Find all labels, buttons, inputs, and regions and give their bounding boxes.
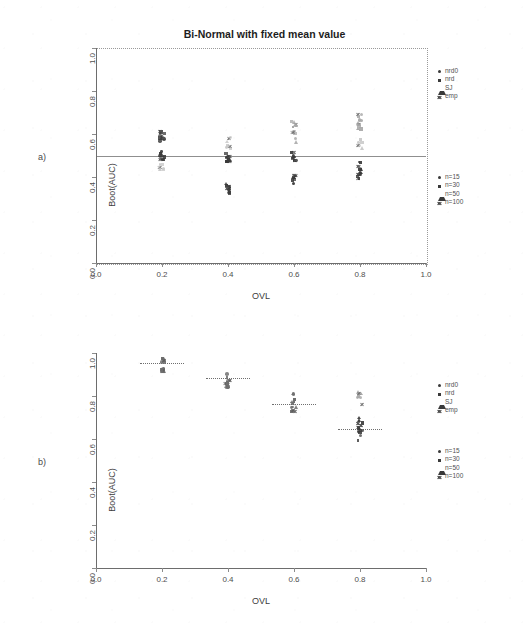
data-point-square xyxy=(359,161,362,164)
legend-glyph-cross-icon xyxy=(438,96,442,100)
data-point-square xyxy=(160,368,163,371)
y-axis-tick-label: 1.0 xyxy=(88,353,97,375)
data-point-square xyxy=(357,124,361,128)
x-axis-tick xyxy=(162,263,163,267)
legend-glyph-circle-icon xyxy=(438,176,441,179)
legend-item-label: emp xyxy=(445,92,458,101)
x-axis-tick-label: 0.6 xyxy=(280,270,308,279)
legend-glyph-square-icon xyxy=(438,185,441,188)
data-point-square xyxy=(357,439,360,442)
panel-label-a: a) xyxy=(38,152,46,162)
data-point-cross xyxy=(162,137,165,140)
data-point-cross xyxy=(163,359,166,362)
legend-glyph-cross-icon xyxy=(438,202,442,206)
x-axis-tick-label: 0.8 xyxy=(346,575,374,584)
data-point-cross xyxy=(294,159,297,162)
x-axis-tick xyxy=(228,568,229,572)
data-point-cross xyxy=(358,392,361,395)
x-axis-tick-label: 0.6 xyxy=(280,575,308,584)
legend-glyph-cross-icon xyxy=(438,410,442,414)
data-point-cross xyxy=(226,187,229,190)
legend-glyph-circle-icon xyxy=(438,384,441,387)
legend-glyph-square-icon xyxy=(438,459,441,462)
legend-item-label: n=30 xyxy=(445,181,460,190)
y-axis-tick-label: 0.6 xyxy=(88,439,97,461)
data-point-triangle xyxy=(158,167,162,171)
x-axis-tick-label: 1.0 xyxy=(412,270,440,279)
data-point-circle xyxy=(293,156,296,159)
legend-glyph-circle-icon xyxy=(438,450,441,453)
legend-item-label: n=15 xyxy=(445,173,460,182)
y-axis-tick-label: 1.0 xyxy=(88,48,97,70)
data-point-cross xyxy=(361,403,364,406)
data-point-cross xyxy=(291,131,294,134)
x-axis-tick xyxy=(426,263,427,267)
x-axis-tick xyxy=(426,568,427,572)
data-point-triangle xyxy=(291,392,295,395)
x-axis-tick-label: 0.2 xyxy=(148,270,176,279)
legend-item-label: n=100 xyxy=(445,198,463,207)
x-axis-tick-label: 0.4 xyxy=(214,575,242,584)
legend-glyph-square-icon xyxy=(438,79,441,82)
x-axis-tick-label: 0.8 xyxy=(346,270,374,279)
data-point-square xyxy=(290,151,293,154)
x-axis-line xyxy=(96,568,427,569)
legend-item-label: SJ xyxy=(445,84,453,93)
legend-item-label: SJ xyxy=(445,398,453,407)
legend-glyph-circle-icon xyxy=(438,70,441,73)
data-point-square xyxy=(358,431,361,434)
y-axis-tick-label: 0.2 xyxy=(88,220,97,242)
data-point-circle xyxy=(359,173,362,176)
x-axis-title: OVL xyxy=(96,596,426,606)
x-axis-tick xyxy=(294,568,295,572)
legend-item-label: n=50 xyxy=(445,464,460,473)
x-axis-title: OVL xyxy=(96,291,426,301)
data-point-square xyxy=(293,400,296,403)
legend-item-label: n=15 xyxy=(445,447,460,456)
data-point-circle xyxy=(225,372,229,376)
panel-label-b: b) xyxy=(38,457,46,467)
x-axis-line xyxy=(96,263,427,264)
x-axis-tick-label: 0.2 xyxy=(148,575,176,584)
x-axis-tick-label: 1.0 xyxy=(412,575,440,584)
y-axis-tick-label: 0.2 xyxy=(88,525,97,547)
y-axis-tick-label: 0.0 xyxy=(88,263,97,285)
data-point-square xyxy=(360,141,363,144)
legend-item-label: n=30 xyxy=(445,455,460,464)
data-point-cross xyxy=(292,409,295,412)
x-axis-tick-label: 0.4 xyxy=(214,270,242,279)
data-point-square xyxy=(162,168,165,171)
y-axis-tick-label: 0.4 xyxy=(88,177,97,199)
y-axis-tick-label: 0.6 xyxy=(88,134,97,156)
legend-item-label: nrd xyxy=(445,75,454,84)
data-point-triangle xyxy=(294,123,298,127)
x-axis-tick xyxy=(228,263,229,267)
legend-item-label: nrd0 xyxy=(445,67,458,76)
chart-title-a: Bi-Normal with fixed mean value xyxy=(0,28,529,40)
data-point-square xyxy=(291,179,294,182)
legend-item-label: n=50 xyxy=(445,190,460,199)
y-axis-tick-label: 0.4 xyxy=(88,482,97,504)
legend-glyph-cross-icon xyxy=(438,476,442,480)
data-point-circle xyxy=(359,434,362,437)
data-point-circle xyxy=(356,396,359,399)
y-axis-tick-label: 0.0 xyxy=(88,568,97,590)
data-point-cross xyxy=(228,145,231,148)
panel-b: b) Bi-Normal with standard deviation fix… xyxy=(0,316,529,632)
data-point-triangle xyxy=(294,140,298,144)
y-axis-title: Boot(AUC) xyxy=(107,460,117,520)
data-point-circle xyxy=(158,139,161,142)
data-point-square xyxy=(158,136,162,140)
plot-area-a xyxy=(96,48,428,265)
y-axis-tick-label: 0.8 xyxy=(88,91,97,113)
data-point-cross xyxy=(360,424,363,427)
data-point-cross xyxy=(228,155,231,158)
data-point-cross xyxy=(357,422,360,425)
data-point-cross xyxy=(357,113,360,116)
reference-line xyxy=(97,156,426,157)
x-axis-tick xyxy=(360,263,361,267)
data-point-square xyxy=(356,175,359,178)
data-point-circle xyxy=(229,136,232,139)
y-axis-title: Boot(AUC) xyxy=(107,155,117,215)
y-axis-tick-label: 0.8 xyxy=(88,396,97,418)
